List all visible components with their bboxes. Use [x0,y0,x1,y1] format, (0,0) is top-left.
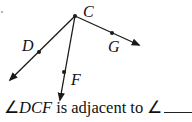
label-c: C [83,4,94,20]
question-body: is adjacent to [52,98,147,117]
label-f: F [71,72,81,88]
ray-cg [75,16,139,45]
point-g-dot [110,31,114,35]
question-text: ∠DCF is adjacent to ∠ [4,98,192,118]
angle-symbol-2: ∠ [147,98,162,117]
angle-name: DCF [19,98,52,117]
point-d-dot [37,50,41,54]
answer-blank[interactable] [164,98,192,113]
label-g: G [108,39,120,55]
angle-symbol: ∠ [4,98,19,117]
label-d: D [22,38,34,54]
stray-dot [1,11,3,13]
vertex-c-dot [73,14,77,18]
point-f-dot [62,70,66,74]
